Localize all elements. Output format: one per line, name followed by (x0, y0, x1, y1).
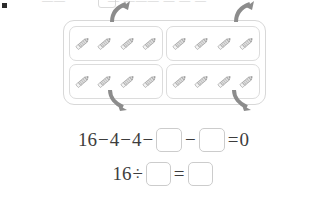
pencil-icon (215, 72, 234, 91)
ghost-text-left: —— (42, 0, 66, 6)
square-bullet-icon (2, 3, 7, 8)
eq2-divide-sign: ÷ (131, 163, 143, 185)
eq1-answer-blank-1[interactable] (156, 128, 182, 152)
eq2-answer-blank-1[interactable] (146, 162, 171, 186)
pencil-icon (95, 34, 114, 53)
pencil-icon (140, 34, 159, 53)
pencil-icon (95, 72, 114, 91)
pencil-icon (73, 34, 92, 53)
pencil-icon (237, 72, 256, 91)
pencil-icon (237, 34, 256, 53)
eq1-number-4b: 4 (132, 129, 142, 151)
clipped-top-row: —— — ——— — — — (0, 0, 327, 10)
eq1-operator-2: − (119, 129, 132, 151)
pencil-group-1 (69, 26, 163, 61)
pencil-group-2 (166, 26, 260, 61)
pencil-icon (118, 34, 137, 53)
eq2-equals-sign: = (173, 163, 186, 185)
pencil-icon (140, 72, 159, 91)
eq1-answer-blank-2[interactable] (199, 128, 225, 152)
pencil-icon (170, 72, 189, 91)
pencil-icon (192, 34, 211, 53)
eq1-operator-4: − (184, 129, 197, 151)
pencil-icon (215, 34, 234, 53)
pencil-icon (73, 72, 92, 91)
subtraction-equation: 16−4−4−−=0 (0, 127, 327, 152)
group-grid (64, 21, 265, 104)
eq2-number-16: 16 (112, 163, 131, 185)
eq1-operator-3: − (141, 129, 154, 151)
division-equation: 16÷= (0, 161, 327, 186)
ghost-text-right: — ——— — — — (108, 0, 207, 6)
pencil-icon (170, 34, 189, 53)
pencil-icon (118, 72, 137, 91)
pencil-group-4 (166, 64, 260, 99)
pencil-group-3 (69, 64, 163, 99)
eq1-equals-sign: = (227, 129, 240, 151)
eq1-number-0: 0 (240, 129, 250, 151)
pencil-group-panel (63, 20, 266, 105)
pencil-icon (192, 72, 211, 91)
eq2-answer-blank-2[interactable] (188, 162, 213, 186)
eq1-operator-1: − (97, 129, 110, 151)
eq1-number-16: 16 (78, 129, 97, 151)
eq1-number-4a: 4 (110, 129, 120, 151)
